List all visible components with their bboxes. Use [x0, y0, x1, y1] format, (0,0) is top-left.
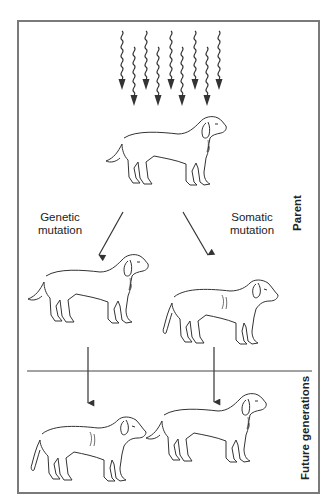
- genetic-child-dog-icon: [28, 255, 148, 323]
- radiation-arrows-icon: [119, 31, 223, 106]
- genetic-mutation-label: Genetic mutation: [30, 211, 90, 237]
- genetic-label-line2: mutation: [30, 224, 90, 237]
- future-genetic-dog-icon: [31, 417, 146, 481]
- somatic-label-line1: Somatic: [222, 211, 282, 224]
- somatic-child-dog-icon: [163, 280, 278, 344]
- somatic-mutation-label: Somatic mutation: [222, 211, 282, 237]
- parent-dog-icon: [106, 117, 226, 185]
- future-generations-section-label: Future generations: [299, 380, 311, 480]
- somatic-arrow: [183, 212, 208, 255]
- future-somatic-dog-icon: [146, 394, 266, 462]
- parent-section-label: Parent: [291, 193, 303, 233]
- genetic-arrow: [99, 212, 123, 255]
- genetic-label-line1: Genetic: [30, 211, 90, 224]
- somatic-label-line2: mutation: [222, 224, 282, 237]
- diagram-artwork: [0, 0, 336, 503]
